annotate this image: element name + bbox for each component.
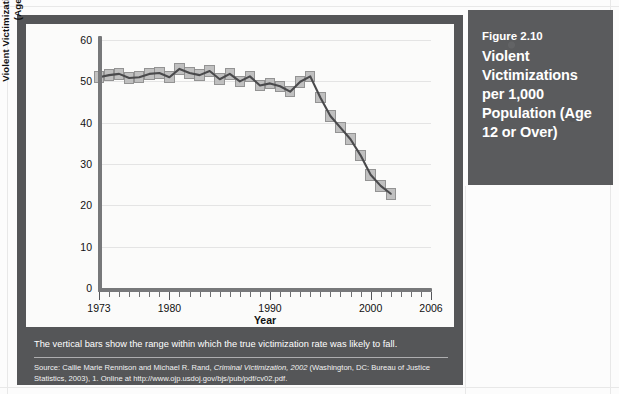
x-axis-tick bbox=[190, 292, 191, 297]
x-axis-tick bbox=[139, 292, 140, 297]
x-axis-tick bbox=[280, 292, 281, 297]
x-axis-tick bbox=[149, 292, 150, 297]
y-axis-tick-labels: 0102030405060 bbox=[60, 24, 92, 324]
series-line bbox=[99, 40, 431, 288]
y-axis-tick-label: 0 bbox=[66, 283, 92, 294]
x-axis-tick bbox=[179, 292, 180, 297]
x-axis-tick bbox=[391, 292, 392, 297]
plot-area bbox=[99, 40, 431, 288]
x-axis-tick bbox=[250, 292, 251, 297]
x-axis-tick bbox=[361, 292, 362, 297]
x-axis-tick bbox=[421, 292, 422, 297]
x-axis-tick-label: 2000 bbox=[359, 302, 382, 314]
x-axis-tick-label: 1973 bbox=[87, 302, 110, 314]
x-axis-tick-label: 1990 bbox=[258, 302, 281, 314]
y-axis-tick-label: 40 bbox=[66, 118, 92, 129]
x-axis-tick bbox=[431, 292, 432, 300]
y-axis-title: Violent Victimizations per 1,000 Populat… bbox=[0, 0, 24, 82]
x-axis-tick bbox=[99, 292, 100, 300]
source-prefix: Source: Callie Marie Rennison and Michae… bbox=[34, 363, 214, 372]
caption-divider bbox=[34, 357, 448, 358]
page-background: 0102030405060 Violent Victimizations per… bbox=[0, 0, 619, 394]
figure-label-block: Figure 2.10 Violent Victimizations per 1… bbox=[468, 10, 613, 185]
x-axis-tick bbox=[300, 292, 301, 297]
x-axis-tick bbox=[109, 292, 110, 297]
x-axis-tick bbox=[220, 292, 221, 297]
x-axis-tick bbox=[230, 292, 231, 297]
page-rule-bottom bbox=[0, 387, 619, 388]
x-axis-tick bbox=[200, 292, 201, 297]
x-axis-tick-label: 2006 bbox=[419, 302, 442, 314]
x-axis-tick bbox=[381, 292, 382, 297]
x-axis-tick bbox=[320, 292, 321, 297]
x-axis-tick-label: 1980 bbox=[158, 302, 181, 314]
x-axis-tick bbox=[119, 292, 120, 297]
x-axis-tick bbox=[270, 292, 271, 300]
y-axis-tick-label: 50 bbox=[66, 76, 92, 87]
page-rule-top bbox=[0, 6, 619, 7]
x-axis-tick bbox=[169, 292, 170, 300]
x-axis-tick bbox=[240, 292, 241, 297]
x-axis-tick bbox=[159, 292, 160, 297]
figure-caption: The vertical bars show the range within … bbox=[34, 338, 448, 350]
x-axis-tick bbox=[411, 292, 412, 297]
x-axis-tick bbox=[310, 292, 311, 297]
x-axis-tick bbox=[401, 292, 402, 297]
source-title: Criminal Victimization, 2002 bbox=[214, 363, 308, 372]
x-axis-tick bbox=[351, 292, 352, 297]
page-rule-mid bbox=[465, 186, 466, 394]
y-axis-tick-label: 30 bbox=[66, 159, 92, 170]
x-axis-tick bbox=[210, 292, 211, 297]
x-axis-tick bbox=[371, 292, 372, 300]
figure-number: Figure 2.10 bbox=[482, 29, 603, 43]
x-axis-tick bbox=[340, 292, 341, 297]
x-axis-title: Year bbox=[99, 314, 431, 326]
y-axis-title-line2: (Age 12 or Over) bbox=[12, 0, 23, 20]
y-axis-tick-label: 10 bbox=[66, 242, 92, 253]
figure-panel: 0102030405060 Violent Victimizations per… bbox=[17, 15, 463, 385]
x-axis-tick bbox=[290, 292, 291, 297]
x-axis-tick bbox=[129, 292, 130, 297]
figure-source: Source: Callie Marie Rennison and Michae… bbox=[34, 363, 452, 384]
figure-title: Violent Victimizations per 1,000 Populat… bbox=[482, 47, 603, 142]
x-axis-line bbox=[98, 288, 432, 292]
chart-card: 0102030405060 Violent Victimizations per… bbox=[26, 24, 454, 327]
x-axis-tick bbox=[260, 292, 261, 297]
y-axis-tick-label: 60 bbox=[66, 35, 92, 46]
y-axis-title-line1: Violent Victimizations per 1,000 Populat… bbox=[0, 0, 11, 82]
y-axis-tick-label: 20 bbox=[66, 200, 92, 211]
x-axis-tick bbox=[330, 292, 331, 297]
y-axis-line bbox=[98, 36, 102, 292]
